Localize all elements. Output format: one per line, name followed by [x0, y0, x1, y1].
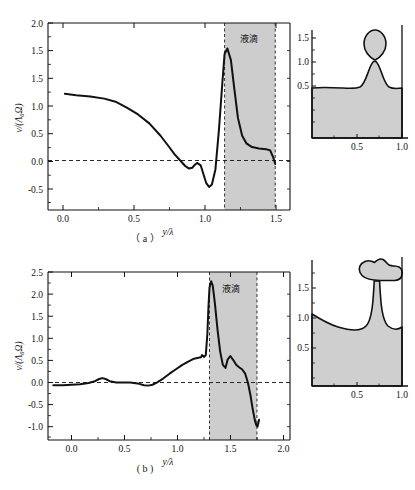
y-ticklabel-a-5: 2.0: [31, 19, 43, 29]
inset-a-droplet: [364, 30, 386, 60]
x-ticklabel-b-0: 0.0: [66, 444, 78, 454]
y-ticklabel-b-1: -0.5: [28, 400, 43, 410]
x-ticklabel-b-1: 0.5: [119, 444, 131, 454]
inset-b-yticklabel-2: 1.5: [297, 283, 309, 293]
x-ticklabel-a-1: 0.5: [128, 214, 140, 224]
inset-a-svg: 1.5 1.0 0.5 0.5 1.0: [290, 10, 415, 185]
y-ticklabel-a-4: 1.5: [31, 74, 43, 84]
panel-a: 2.0 1.5 1.0 0.5 0.0 -0.5 1.5 0.0 0.5 1.0…: [0, 0, 415, 245]
figure-container: 2.0 1.5 1.0 0.5 0.0 -0.5 1.5 0.0 0.5 1.0…: [0, 0, 415, 490]
y-ticklabel-a-3: 1.0: [31, 102, 43, 112]
x-ticklabel-b-4: 2.0: [278, 444, 290, 454]
inset-a-xticklabel-1: 1.0: [396, 142, 408, 152]
y-axis-label-b: v/(Λ₀Ω): [14, 341, 25, 370]
y-ticks-b: [48, 272, 53, 437]
y-ticklabel-a-2: 0.5: [31, 129, 43, 139]
y-ticklabel-b-6: 2.0: [31, 290, 43, 300]
y-ticklabel-b-5: 1.5: [31, 312, 43, 322]
inset-b-droplet: [359, 259, 402, 281]
droplet-band-b: [210, 272, 257, 440]
inset-b-svg: 1.5 1.0 0.5 0.5 1.0: [290, 250, 415, 430]
inset-b-yticklabel-1: 1.0: [297, 313, 309, 323]
inset-a-yticklabel-1: 1.0: [297, 57, 309, 67]
x-ticklabel-a-3: 1.5: [270, 214, 282, 224]
y-ticklabel-b-2: 0.0: [31, 378, 43, 388]
x-ticklabel-b-2: 1.0: [172, 444, 184, 454]
inset-a-yticklabel-0: 0.5: [297, 81, 309, 91]
inset-b-xticklabel-0: 0.5: [351, 390, 363, 400]
inset-a-xticklabel-0: 0.5: [351, 142, 363, 152]
y-ticklabel-b-3: 0.5: [31, 356, 43, 366]
y-ticklabel-a-0: -0.5: [28, 185, 43, 195]
x-ticklabel-a-2: 1.0: [199, 214, 211, 224]
panel-b: 2.5 2.0 1.5 1.0 0.5 0.0 -0.5 -1.0 0.0 0.…: [0, 243, 415, 490]
x-ticklabel-a-0: 0.0: [57, 214, 69, 224]
inset-a-yticklabel-2: 1.5: [297, 33, 309, 43]
y-ticklabel-a-1: 0.0: [31, 157, 43, 167]
inset-b-xticklabel-1: 1.0: [396, 390, 408, 400]
y-ticklabel-b-0: -1.0: [28, 422, 43, 432]
inset-b-yticklabel-0: 0.5: [297, 343, 309, 353]
inset-b-fluid-film: [312, 281, 402, 386]
inset-a-fluid-film: [312, 62, 402, 139]
y-ticks-a: [48, 23, 53, 203]
droplet-annotation-b: 液滴: [222, 283, 240, 294]
panel-b-caption: ( b ): [137, 463, 154, 474]
x-ticklabel-b-3: 1.5: [225, 444, 237, 454]
y-ticklabel-b-7: 2.5: [31, 268, 43, 278]
droplet-band-a: [225, 23, 276, 210]
y-ticklabel-b-4: 1.0: [31, 334, 43, 344]
y-ticklabel-a-4b: 1.5: [31, 46, 43, 56]
droplet-annotation-a: 液滴: [240, 33, 258, 44]
y-axis-label-a: v/(Λ₀Ω): [14, 103, 25, 132]
